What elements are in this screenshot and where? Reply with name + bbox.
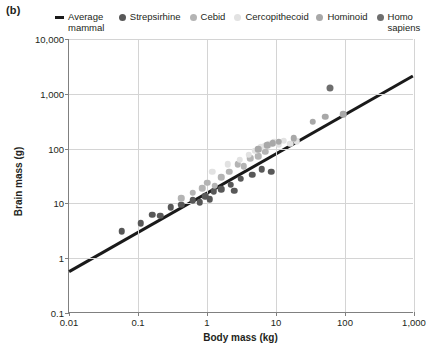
legend-dot-marker	[234, 14, 241, 21]
legend-label: Cebid	[201, 12, 226, 23]
legend-label: Hominoid	[327, 12, 367, 23]
data-point	[157, 212, 164, 219]
data-point	[189, 197, 196, 204]
x-tick-label: 10	[271, 317, 282, 328]
data-point	[168, 204, 175, 211]
x-tickmark	[414, 312, 415, 316]
data-point	[255, 146, 262, 153]
data-point	[340, 111, 347, 118]
x-tickmark	[207, 312, 208, 316]
gridline-horizontal	[69, 94, 413, 95]
data-point	[207, 196, 214, 203]
y-tick-label: 100	[48, 143, 64, 154]
x-tickmark	[276, 312, 277, 316]
data-point	[240, 163, 247, 170]
y-tickmark	[65, 94, 69, 95]
y-tick-label: 1,000	[40, 88, 64, 99]
legend-item: Strepsirhine	[119, 12, 181, 23]
data-point	[204, 179, 211, 186]
data-point	[287, 141, 294, 148]
x-tick-label: 1	[204, 317, 209, 328]
legend-item: Average mammal	[55, 12, 110, 33]
data-point	[290, 135, 297, 142]
gridline-vertical	[207, 39, 208, 312]
data-point	[326, 84, 333, 91]
legend-item: Hominoid	[316, 12, 367, 23]
data-point	[196, 199, 203, 206]
x-tick-label: 0.1	[131, 317, 144, 328]
gridline-vertical	[345, 39, 346, 312]
gridline-horizontal	[69, 258, 413, 259]
legend-item: Cebid	[190, 12, 226, 23]
legend-label: Strepsirhine	[130, 12, 181, 23]
y-tick-label: 10	[53, 198, 64, 209]
data-point	[276, 139, 283, 146]
x-tick-label: 1,000	[402, 317, 426, 328]
legend-item: Cercopithecoid	[234, 12, 307, 23]
y-tickmark	[65, 203, 69, 204]
data-point	[231, 188, 238, 195]
data-point	[210, 188, 217, 195]
legend-label: Homo sapiens	[388, 12, 429, 33]
data-point	[218, 186, 225, 193]
data-point	[209, 168, 216, 175]
data-point	[258, 166, 265, 173]
data-point	[189, 190, 196, 197]
data-point	[178, 195, 185, 202]
data-point	[225, 161, 232, 168]
data-point	[118, 228, 125, 235]
chart-legend: Average mammalStrepsirhineCebidCercopith…	[55, 12, 429, 33]
data-point	[238, 176, 245, 183]
data-point	[178, 201, 185, 208]
legend-dot-marker	[119, 14, 126, 21]
x-tickmark	[138, 312, 139, 316]
y-tickmark	[65, 149, 69, 150]
gridline-vertical	[138, 39, 139, 312]
x-tickmark	[345, 312, 346, 316]
data-point	[255, 153, 262, 160]
data-point	[249, 172, 256, 179]
data-point	[322, 113, 329, 120]
data-point	[309, 118, 316, 125]
y-tick-label: 1	[59, 253, 64, 264]
average-mammal-trendline	[69, 76, 413, 272]
legend-dot-marker	[377, 14, 384, 21]
gridline-vertical	[276, 39, 277, 312]
y-axis-title: Brain mass (g)	[13, 112, 24, 252]
gridline-horizontal	[69, 203, 413, 204]
legend-dot-marker	[190, 14, 197, 21]
x-tickmark	[69, 312, 70, 316]
gridline-horizontal	[69, 39, 413, 40]
legend-line-marker	[55, 16, 64, 19]
data-point	[149, 212, 156, 219]
data-point	[212, 182, 219, 189]
x-tick-label: 0.01	[60, 317, 79, 328]
legend-label: Average mammal	[68, 12, 110, 33]
panel-label: (b)	[6, 4, 21, 16]
plot-area: 0.11101001,00010,0000.010.11101001,000	[68, 39, 413, 313]
data-point	[138, 220, 145, 227]
data-point	[226, 168, 233, 175]
x-tick-label: 100	[337, 317, 353, 328]
gridline-horizontal	[69, 149, 413, 150]
data-point	[245, 151, 252, 158]
data-point	[268, 168, 275, 175]
data-point	[237, 157, 244, 164]
gridline-vertical	[414, 39, 415, 312]
data-point	[199, 185, 206, 192]
y-tick-label: 10,000	[35, 34, 64, 45]
x-axis-title: Body mass (kg)	[68, 332, 413, 343]
legend-dot-marker	[316, 14, 323, 21]
legend-item: Homo sapiens	[377, 12, 429, 33]
y-tickmark	[65, 39, 69, 40]
y-tickmark	[65, 258, 69, 259]
legend-label: Cercopithecoid	[245, 12, 307, 23]
data-point	[218, 174, 225, 181]
